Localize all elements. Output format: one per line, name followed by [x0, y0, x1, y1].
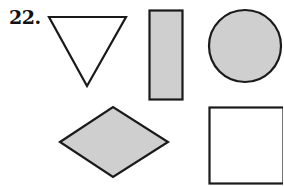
figure-canvas: 22. — [0, 0, 283, 186]
triangle-shape — [49, 17, 126, 86]
shapes-figure — [0, 0, 283, 186]
square-shape — [210, 108, 284, 184]
rhombus-shape — [60, 107, 168, 177]
circle-shape — [209, 10, 281, 82]
rectangle-shape — [150, 11, 183, 100]
